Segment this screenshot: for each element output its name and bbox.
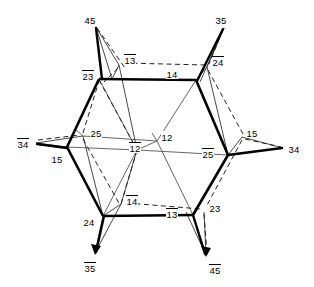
graph-drawing bbox=[0, 0, 314, 287]
outer-spikes bbox=[37, 28, 282, 254]
edge-thin-12-spur bbox=[152, 133, 157, 141]
edge-thin-left-12bar bbox=[67, 147, 137, 150]
label-13-bottom: 13 bbox=[166, 208, 178, 219]
dash-13-to-24 bbox=[124, 63, 205, 65]
label-34-left: 34 bbox=[17, 138, 29, 149]
label-14-top: 14 bbox=[166, 68, 178, 79]
hex-edge-top bbox=[99, 79, 196, 80]
hex-edge-lower-left bbox=[67, 147, 103, 216]
label-14-bottom: 14 bbox=[126, 195, 138, 206]
tip-35b bbox=[91, 244, 101, 255]
hex-edge-bottom bbox=[103, 215, 193, 216]
label-23-bottomright: 23 bbox=[209, 202, 221, 213]
label-35-topright: 35 bbox=[215, 14, 227, 25]
label-24-bottomleft: 24 bbox=[83, 216, 95, 227]
label-35-bottom: 35 bbox=[84, 262, 96, 273]
tip-45br bbox=[201, 246, 211, 257]
spike-tips bbox=[91, 244, 211, 257]
label-24-topright: 24 bbox=[212, 56, 224, 67]
label-12-centerbar: 12 bbox=[129, 142, 141, 153]
dashed-edges bbox=[38, 28, 281, 253]
edge-13-down bbox=[119, 65, 137, 150]
outer-thin-edges bbox=[36, 27, 283, 255]
edge-13-to-hexin bbox=[112, 65, 119, 79]
diagram-canvas: 45 35 13 24 23 14 34 25 12 15 15 12 25 3… bbox=[0, 0, 314, 287]
label-13-top: 13 bbox=[124, 54, 136, 65]
label-12-center: 12 bbox=[161, 131, 173, 142]
label-25-left: 25 bbox=[90, 127, 102, 138]
label-25-rightvertex: 25 bbox=[202, 148, 214, 159]
label-45-bottomright: 45 bbox=[209, 264, 221, 275]
dash-14-to-23 bbox=[127, 203, 201, 209]
label-45-topleft: 45 bbox=[84, 14, 96, 25]
label-15-leftvertex: 15 bbox=[51, 153, 63, 164]
label-23-upperleft: 23 bbox=[82, 70, 94, 81]
dash-24-down bbox=[208, 70, 243, 134]
hex-edge-upper-right bbox=[196, 80, 228, 155]
label-34-right: 34 bbox=[288, 143, 300, 154]
edge-thin-12-right bbox=[137, 150, 228, 155]
label-15-right: 15 bbox=[246, 127, 258, 138]
